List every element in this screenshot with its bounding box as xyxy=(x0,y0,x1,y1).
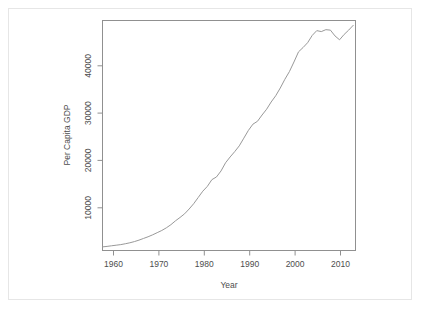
y-tick-label-3: 40000 xyxy=(83,54,93,78)
y-axis-title: Per Capita GDP xyxy=(62,104,72,165)
plot-box xyxy=(103,21,356,251)
y-axis-ticks xyxy=(98,66,103,208)
x-tick-label-1: 1970 xyxy=(149,259,168,269)
plot-canvas: 1960 1970 1980 1990 2000 2010 10000 2000… xyxy=(0,0,421,309)
x-tick-label-3: 1990 xyxy=(240,259,259,269)
x-tick-label-5: 2010 xyxy=(331,259,350,269)
y-tick-label-2: 30000 xyxy=(83,101,93,125)
y-tick-label-0: 10000 xyxy=(83,196,93,220)
x-axis-title: Year xyxy=(220,280,237,290)
x-tick-label-2: 1980 xyxy=(195,259,214,269)
x-tick-label-0: 1960 xyxy=(104,259,123,269)
data-series-line xyxy=(103,25,354,247)
x-tick-label-4: 2000 xyxy=(286,259,305,269)
y-tick-label-1: 20000 xyxy=(83,148,93,172)
chart-figure: 1960 1970 1980 1990 2000 2010 10000 2000… xyxy=(0,0,421,309)
x-axis-ticks xyxy=(114,251,341,256)
